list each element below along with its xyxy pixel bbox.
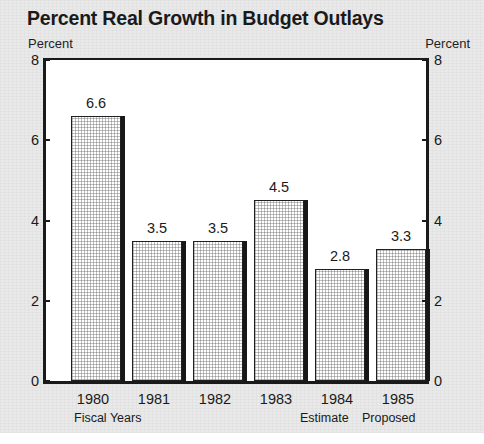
chart-page: Percent Real Growth in Budget Outlays Pe… [0, 0, 484, 444]
bar-value-label-1983: 4.5 [269, 179, 289, 195]
plot-area: 6.63.53.54.52.83.3 [43, 58, 429, 384]
bar-slot: 3.5 [193, 55, 243, 381]
bar-slot: 3.3 [376, 55, 426, 381]
bar-value-label-1982: 3.5 [208, 220, 228, 236]
bar-slot: 2.8 [315, 55, 365, 381]
y-axis-unit-label-left: Percent [28, 36, 73, 51]
y-tick-label-left-0: 0 [25, 374, 39, 389]
x-axis-label-1982: 1982 [190, 391, 240, 407]
y-tick-left-2 [43, 300, 50, 302]
bar-1980 [71, 116, 121, 381]
y-tick-label-right-8: 8 [434, 53, 448, 68]
x-axis-label-1984: 1984 [312, 391, 362, 407]
bar-1981 [132, 241, 182, 381]
y-tick-left-4 [43, 220, 50, 222]
bar-1984 [315, 269, 365, 381]
x-axis-label-1980: 1980 [68, 391, 118, 407]
x-axis-label-1981: 1981 [129, 391, 179, 407]
x-axis-note-estimate: Estimate [300, 411, 349, 425]
bar-value-label-1985: 3.3 [391, 228, 411, 244]
x-axis-label-1985: 1985 [373, 391, 423, 407]
bar-1982 [193, 241, 243, 381]
y-tick-right-2 [422, 300, 429, 302]
y-tick-label-left-8: 8 [25, 53, 39, 68]
x-axis-note-fiscal-years: Fiscal Years [74, 411, 141, 425]
x-axis-label-1983: 1983 [251, 391, 301, 407]
y-tick-right-6 [422, 139, 429, 141]
bar-value-label-1981: 3.5 [147, 220, 167, 236]
y-tick-label-right-4: 4 [434, 214, 448, 229]
bar-value-label-1980: 6.6 [86, 95, 106, 111]
y-tick-label-left-2: 2 [25, 294, 39, 309]
bar-1985 [376, 249, 426, 381]
y-tick-label-right-0: 0 [434, 374, 448, 389]
y-tick-left-8 [43, 59, 50, 61]
y-tick-label-right-6: 6 [434, 133, 448, 148]
bar-value-label-1984: 2.8 [330, 248, 350, 264]
y-axis-unit-label-right: Percent [425, 36, 470, 51]
y-tick-right-8 [422, 59, 429, 61]
y-tick-right-0 [422, 380, 429, 382]
bar-slot: 6.6 [71, 55, 121, 381]
y-tick-left-0 [43, 380, 50, 382]
chart-title: Percent Real Growth in Budget Outlays [27, 7, 384, 30]
y-tick-label-left-4: 4 [25, 214, 39, 229]
y-tick-left-6 [43, 139, 50, 141]
bar-series: 6.63.53.54.52.83.3 [46, 60, 426, 381]
x-axis-note-proposed: Proposed [362, 411, 416, 425]
bar-slot: 4.5 [254, 55, 304, 381]
y-tick-label-right-2: 2 [434, 294, 448, 309]
y-tick-right-4 [422, 220, 429, 222]
y-tick-label-left-6: 6 [25, 133, 39, 148]
bar-slot: 3.5 [132, 55, 182, 381]
bar-1983 [254, 200, 304, 381]
